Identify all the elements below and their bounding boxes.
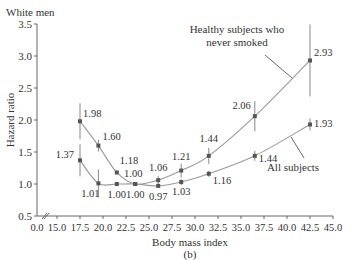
data-point [179, 169, 183, 173]
x-tick-label: 0.0 [30, 222, 43, 233]
data-label: 1.21 [172, 151, 190, 162]
data-label: 1.00 [124, 168, 142, 179]
x-tick-label: 40.0 [278, 222, 296, 233]
x-tick-label: 20.0 [94, 222, 112, 233]
axes: 0.51.01.52.02.53.03.50.015.017.520.022.5… [18, 18, 342, 233]
data-point [207, 172, 211, 176]
x-tick-label: 35.0 [232, 222, 250, 233]
data-point [308, 122, 312, 126]
data-point [253, 154, 257, 158]
x-tick-label: 45.0 [324, 222, 342, 233]
data-point [133, 182, 137, 186]
data-point [96, 181, 100, 185]
panel-title: White men [6, 6, 55, 18]
data-point [78, 119, 82, 123]
x-tick-label: 27.5 [163, 222, 181, 233]
data-point [156, 178, 160, 182]
annotation-healthy-line2: never smoked [206, 36, 268, 48]
data-point [207, 154, 211, 158]
data-label: 1.06 [149, 162, 167, 173]
data-label: 1.03 [172, 186, 190, 197]
data-label: 1.18 [120, 155, 138, 166]
data-label: 2.93 [314, 47, 332, 58]
x-tick-label: 30.0 [186, 222, 204, 233]
data-point [78, 158, 82, 162]
data-label: 1.00 [108, 189, 126, 200]
annotation-all-subjects: All subjects [267, 161, 319, 173]
x-tick-label: 17.5 [71, 222, 89, 233]
y-axis-label: Hazard ratio [4, 92, 16, 147]
data-point [96, 144, 100, 148]
data-point [156, 184, 160, 188]
data-label: 1.98 [83, 108, 101, 119]
hazard-ratio-chart: White men 0.51.01.52.02.53.03.50.015.017… [0, 0, 350, 260]
data-label: 1.00 [126, 189, 144, 200]
x-axis-label: Body mass index [152, 236, 228, 248]
x-tick-label: 42.5 [301, 222, 319, 233]
data-point [253, 114, 257, 118]
x-tick-label: 32.5 [209, 222, 227, 233]
series-group: 1.981.601.181.001.061.211.442.062.931.37… [56, 24, 333, 201]
data-label: 1.60 [102, 131, 120, 142]
data-point [179, 180, 183, 184]
data-label: 1.37 [56, 149, 74, 160]
data-point [115, 182, 119, 186]
data-label: 2.06 [232, 100, 250, 111]
data-label: 1.01 [81, 188, 99, 199]
data-label: 1.44 [200, 133, 219, 144]
y-tick-label: 3.5 [18, 18, 32, 30]
x-tick-label: 37.5 [255, 222, 273, 233]
x-tick-label: 25.0 [140, 222, 158, 233]
y-tick-label: 0.5 [18, 210, 32, 222]
y-tick-label: 3.0 [18, 50, 32, 62]
panel-label: (b) [184, 248, 197, 260]
data-point [115, 170, 119, 174]
y-tick-label: 1.5 [18, 146, 32, 158]
y-tick-label: 1.0 [18, 178, 32, 190]
data-label: 0.97 [149, 191, 167, 202]
data-label: 1.93 [314, 118, 332, 129]
y-tick-label: 2.0 [18, 114, 32, 126]
annotation-healthy-line1: Healthy subjects who [190, 23, 285, 35]
data-label: 1.16 [213, 175, 231, 186]
y-tick-label: 2.5 [18, 82, 32, 94]
data-point [308, 58, 312, 62]
x-tick-label: 15.0 [48, 222, 66, 233]
x-tick-label: 22.5 [117, 222, 135, 233]
